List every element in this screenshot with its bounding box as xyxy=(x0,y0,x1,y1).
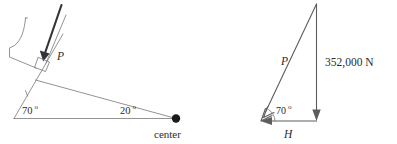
right-diagram-group: P 70 o H 352,000 N xyxy=(261,4,375,140)
vertical-force-arrowhead xyxy=(312,110,320,122)
left-diagram-group: P 70 o 20 o center xyxy=(10,5,182,140)
left-angle-70-label: 70 xyxy=(22,105,33,116)
dam-profile-curve xyxy=(10,18,37,68)
left-angle-70-degree-symbol: o xyxy=(35,103,39,111)
right-angle-70-degree-symbol: o xyxy=(288,103,292,111)
angle-70-arc xyxy=(26,91,28,97)
center-point-dot xyxy=(172,114,180,122)
right-angle-70-label: 70 xyxy=(276,105,286,116)
figure-root: P 70 o 20 o center xyxy=(0,0,397,144)
vertical-force-value-label: 352,000 N xyxy=(325,56,374,69)
left-angle-20-label: 20 xyxy=(120,105,131,116)
left-angle-20-degree-symbol: o xyxy=(133,103,137,111)
horizontal-force-H-label: H xyxy=(283,128,293,140)
thrust-P-arrow-shaft xyxy=(266,4,317,111)
center-label: center xyxy=(154,128,181,140)
right-force-P-label: P xyxy=(280,55,288,67)
radius-line-to-center xyxy=(36,80,177,119)
left-force-P-label: P xyxy=(56,50,64,62)
figure-canvas: P 70 o 20 o center xyxy=(0,0,397,144)
